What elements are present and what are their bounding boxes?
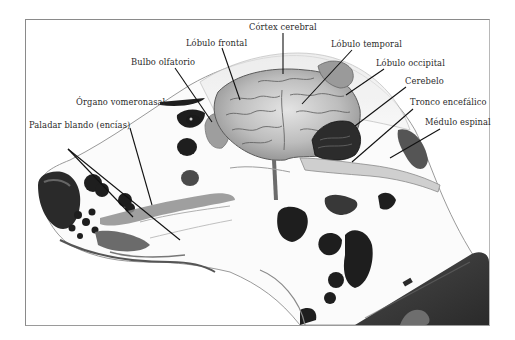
label-vomeronasal-organ: Órgano vomeronasal (76, 97, 165, 107)
diagram-canvas: Córtex cerebral Lóbulo frontal Lóbulo te… (0, 0, 515, 340)
label-temporal-lobe: Lóbulo temporal (331, 39, 402, 49)
dog-brain-illustration (0, 0, 515, 340)
label-frontal-lobe: Lóbulo frontal (186, 38, 247, 48)
label-cerebellum: Cerebelo (405, 76, 444, 86)
label-brainstem: Tronco encefálico (410, 97, 487, 107)
label-cerebral-cortex: Córtex cerebral (249, 22, 317, 32)
label-occipital-lobe: Lóbulo occipital (376, 58, 445, 68)
label-olfactory-bulb: Bulbo olfatorio (131, 57, 195, 67)
eye (186, 115, 200, 125)
label-soft-palate: Paladar blando (encías) (29, 120, 130, 130)
label-spinal-cord: Médulo espinal (425, 117, 491, 127)
